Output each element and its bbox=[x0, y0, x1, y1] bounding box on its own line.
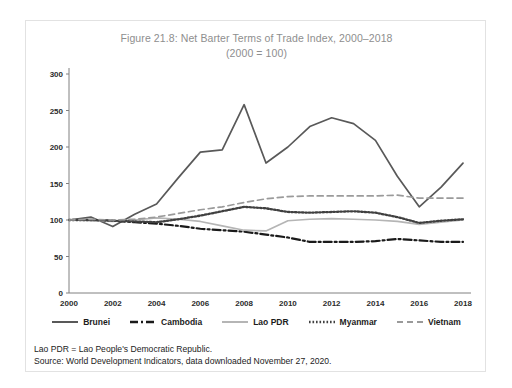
chart-axes bbox=[69, 68, 471, 293]
legend-swatch-cambodia bbox=[130, 317, 156, 327]
svg-text:150: 150 bbox=[50, 180, 64, 189]
x-axis-tick-labels: 2000200220042006200820102012201420162018 bbox=[60, 299, 472, 308]
svg-text:50: 50 bbox=[54, 253, 63, 262]
legend-item-lao-pdr[interactable]: Lao PDR bbox=[222, 317, 288, 327]
svg-text:2012: 2012 bbox=[323, 299, 341, 308]
svg-text:2002: 2002 bbox=[104, 299, 122, 308]
line-chart: 050100150200250300 200020022004200620082… bbox=[26, 21, 487, 321]
legend-swatch-lao-pdr bbox=[222, 317, 248, 327]
svg-text:2014: 2014 bbox=[367, 299, 385, 308]
legend-label: Brunei bbox=[83, 317, 110, 327]
svg-text:100: 100 bbox=[50, 216, 64, 225]
legend-label: Myanmar bbox=[340, 317, 377, 327]
figure-frame: Figure 21.8: Net Barter Terms of Trade I… bbox=[25, 20, 486, 372]
legend-item-myanmar[interactable]: Myanmar bbox=[309, 317, 377, 327]
chart-legend: BruneiCambodiaLao PDRMyanmarVietnam bbox=[26, 317, 487, 327]
series-line-myanmar bbox=[69, 207, 463, 223]
legend-swatch-vietnam bbox=[397, 317, 423, 327]
legend-swatch-brunei bbox=[52, 317, 78, 327]
note-abbreviation: Lao PDR = Lao People's Democratic Republ… bbox=[34, 343, 484, 355]
legend-item-cambodia[interactable]: Cambodia bbox=[130, 317, 202, 327]
legend-item-vietnam[interactable]: Vietnam bbox=[397, 317, 461, 327]
svg-text:300: 300 bbox=[50, 70, 64, 79]
legend-item-brunei[interactable]: Brunei bbox=[52, 317, 110, 327]
svg-text:2008: 2008 bbox=[235, 299, 253, 308]
legend-label: Cambodia bbox=[161, 317, 202, 327]
svg-text:200: 200 bbox=[50, 143, 64, 152]
legend-label: Lao PDR bbox=[253, 317, 288, 327]
note-source: Source: World Development Indicators, da… bbox=[34, 355, 484, 367]
legend-swatch-myanmar bbox=[309, 317, 335, 327]
chart-series-group bbox=[69, 105, 463, 242]
svg-text:2010: 2010 bbox=[279, 299, 297, 308]
svg-text:2006: 2006 bbox=[191, 299, 209, 308]
svg-text:0: 0 bbox=[59, 289, 64, 298]
legend-label: Vietnam bbox=[428, 317, 461, 327]
svg-text:2018: 2018 bbox=[454, 299, 472, 308]
svg-text:2004: 2004 bbox=[148, 299, 166, 308]
svg-text:2016: 2016 bbox=[410, 299, 428, 308]
figure-notes: Lao PDR = Lao People's Democratic Republ… bbox=[34, 343, 484, 367]
svg-text:2000: 2000 bbox=[60, 299, 78, 308]
y-axis-tick-labels: 050100150200250300 bbox=[50, 70, 69, 298]
svg-text:250: 250 bbox=[50, 107, 64, 116]
